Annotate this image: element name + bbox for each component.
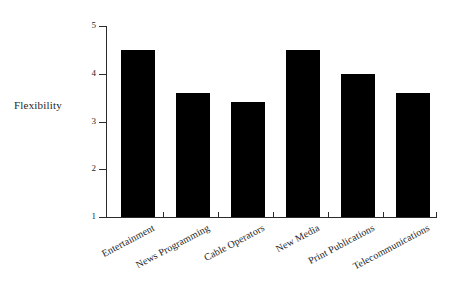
bar[interactable] (176, 93, 210, 217)
bar[interactable] (396, 93, 430, 217)
x-axis-line (106, 217, 436, 218)
y-tick-label: 2 (80, 163, 96, 173)
y-axis-title: Flexibility (14, 99, 84, 111)
bars-layer (106, 26, 436, 217)
bar-chart: Flexibility 12345 EntertainmentNews Prog… (0, 0, 458, 295)
bar[interactable] (121, 50, 155, 217)
bar[interactable] (341, 74, 375, 217)
y-tick-label: 3 (80, 116, 96, 126)
x-tick-mark (436, 212, 437, 218)
x-axis-category-label: New Media (274, 222, 321, 254)
bar[interactable] (286, 50, 320, 217)
bar[interactable] (231, 102, 265, 217)
y-tick-label: 5 (80, 20, 96, 30)
y-tick-mark (99, 217, 107, 218)
y-tick-label: 4 (80, 68, 96, 78)
x-axis-category-label: Cable Operators (202, 222, 266, 263)
y-tick-label: 1 (80, 211, 96, 221)
